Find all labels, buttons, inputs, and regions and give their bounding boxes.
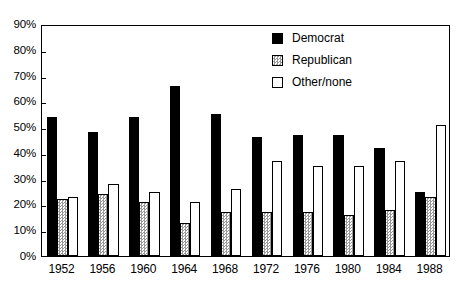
chart-legend: DemocratRepublicanOther/none (272, 29, 392, 95)
y-axis-tick-label: 0% (0, 251, 36, 263)
y-axis-tick-mark (42, 206, 46, 207)
x-axis-tick-label: 1976 (294, 262, 320, 276)
bar-chart: 0%10%20%30%40%50%60%70%80%90% 1952195619… (0, 0, 458, 296)
bar-democrat-1976 (293, 135, 303, 256)
x-axis-tick-label: 1964 (171, 262, 197, 276)
bar-group (83, 26, 124, 256)
bar-republican-1968 (221, 212, 231, 256)
y-axis-tick-mark (42, 103, 46, 104)
y-axis-tick-mark (42, 52, 46, 53)
legend-item-label: Republican (292, 54, 352, 66)
bar-republican-1988 (425, 197, 435, 256)
bar-democrat-1980 (333, 135, 343, 256)
y-axis-tick-mark (42, 155, 46, 156)
bar-republican-1952 (57, 199, 67, 256)
bar-republican-1980 (344, 215, 354, 256)
bar-republican-1976 (303, 212, 313, 256)
y-axis-tick-mark (42, 78, 46, 79)
bar-other-none-1960 (149, 192, 159, 256)
y-axis-tick-label: 60% (0, 97, 36, 109)
bar-group (165, 26, 206, 256)
bar-democrat-1964 (170, 86, 180, 256)
bar-republican-1960 (139, 202, 149, 256)
y-axis-tick-label: 90% (0, 19, 36, 31)
bar-other-none-1988 (436, 125, 446, 256)
y-axis-tick-label: 50% (0, 122, 36, 134)
bar-republican-1956 (98, 194, 108, 256)
y-axis-tick-label: 10% (0, 225, 36, 237)
legend-item-other-none: Other/none (272, 73, 392, 91)
bar-democrat-1972 (252, 137, 262, 256)
x-axis-tick-label: 1988 (417, 262, 443, 276)
x-axis-tick-label: 1956 (89, 262, 115, 276)
bar-republican-1964 (180, 223, 190, 257)
bar-democrat-1960 (129, 117, 139, 256)
y-axis-tick-label: 20% (0, 200, 36, 212)
white-outline-swatch (272, 77, 283, 88)
solid-black-swatch (272, 33, 283, 44)
y-axis-tick-label: 70% (0, 71, 36, 83)
bar-democrat-1988 (415, 192, 425, 256)
bar-republican-1984 (385, 210, 395, 256)
x-axis-tick-label: 1984 (376, 262, 402, 276)
y-axis-tick-mark (42, 129, 46, 130)
bar-democrat-1968 (211, 114, 221, 256)
checkered-gray-swatch (272, 55, 283, 66)
bar-other-none-1952 (68, 197, 78, 256)
y-axis-tick-label: 40% (0, 148, 36, 160)
bar-group (206, 26, 247, 256)
y-axis-tick-mark (42, 232, 46, 233)
y-axis-tick-label: 30% (0, 174, 36, 186)
y-axis-tick-mark (42, 181, 46, 182)
x-axis-tick-label: 1968 (212, 262, 238, 276)
x-axis-tick-label: 1952 (48, 262, 74, 276)
bar-other-none-1976 (313, 166, 323, 256)
bar-other-none-1984 (395, 161, 405, 256)
x-axis-tick-label: 1980 (335, 262, 361, 276)
x-axis: 1952195619601964196819721976198019841988 (41, 262, 450, 284)
legend-item-democrat: Democrat (272, 29, 392, 47)
bar-other-none-1980 (354, 166, 364, 256)
bar-democrat-1952 (47, 117, 57, 256)
bar-other-none-1972 (272, 161, 282, 256)
x-axis-tick-label: 1960 (130, 262, 156, 276)
x-axis-tick-label: 1972 (253, 262, 279, 276)
legend-item-label: Other/none (292, 76, 352, 88)
bar-republican-1972 (262, 212, 272, 256)
bar-other-none-1968 (231, 189, 241, 256)
bar-other-none-1956 (108, 184, 118, 256)
legend-item-label: Democrat (292, 32, 344, 44)
bar-democrat-1956 (88, 132, 98, 256)
y-axis-tick-label: 80% (0, 45, 36, 57)
bar-group (410, 26, 451, 256)
bar-democrat-1984 (374, 148, 384, 256)
bar-group (42, 26, 83, 256)
bar-other-none-1964 (190, 202, 200, 256)
bar-group (124, 26, 165, 256)
y-axis: 0%10%20%30%40%50%60%70%80%90% (0, 25, 36, 257)
legend-item-republican: Republican (272, 51, 392, 69)
